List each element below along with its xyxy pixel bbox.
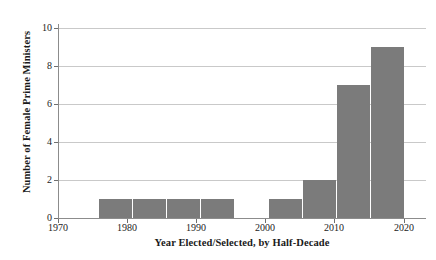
x-tick-label-1990: 1990 <box>171 222 221 234</box>
bar-2010 <box>337 85 370 218</box>
x-tick-label-2010: 2010 <box>309 222 359 234</box>
bar-1985 <box>167 199 200 218</box>
gridline-10 <box>58 28 426 29</box>
y-tick-mark-2 <box>54 180 58 181</box>
y-axis-title: Number of Female Prime Ministers <box>18 2 36 222</box>
y-tick-mark-6 <box>54 104 58 105</box>
y-tick-mark-10 <box>54 28 58 29</box>
x-tick-label-2020: 2020 <box>379 222 429 234</box>
y-tick-label-4: 4 <box>30 137 52 147</box>
x-axis-title: Year Elected/Selected, by Half-Decade <box>58 237 426 248</box>
y-tick-mark-8 <box>54 66 58 67</box>
x-tick-label-2000: 2000 <box>240 222 290 234</box>
x-tick-label-1970: 1970 <box>33 222 83 234</box>
y-tick-label-8: 8 <box>30 61 52 71</box>
bar-2005 <box>303 180 336 218</box>
chart-figure: Number of Female Prime Ministers 10 8 6 … <box>0 0 436 260</box>
bar-2015 <box>371 47 404 218</box>
y-tick-label-2: 2 <box>30 175 52 185</box>
y-axis-line <box>58 24 59 219</box>
bar-2000 <box>269 199 302 218</box>
x-tick-label-1980: 1980 <box>102 222 152 234</box>
y-tick-label-10: 10 <box>30 23 52 33</box>
bar-1990 <box>201 199 234 218</box>
bar-1980 <box>133 199 166 218</box>
y-tick-mark-4 <box>54 142 58 143</box>
x-axis-line <box>58 218 426 219</box>
y-tick-label-6: 6 <box>30 99 52 109</box>
bar-1975 <box>99 199 132 218</box>
